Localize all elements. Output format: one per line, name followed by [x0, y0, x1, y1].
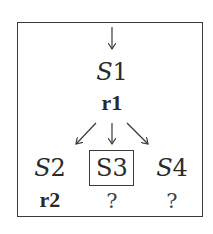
s4-state-number: 4 [173, 154, 188, 182]
root-rule-label: r1 [92, 91, 132, 115]
child-s4-rule-label: ? [152, 189, 192, 213]
s2-state-letter: S [34, 154, 50, 182]
child-s2-state-label: S2 [30, 156, 70, 180]
root-state-letter: S [96, 58, 112, 86]
s4-state-letter: S [156, 154, 172, 182]
root-state-number: 1 [113, 58, 128, 86]
arrow-to-s4-icon [127, 123, 148, 144]
child-s2-rule-label: r2 [30, 188, 70, 212]
child-s4-state-label: S4 [152, 156, 192, 180]
root-state-label: S1 [92, 60, 132, 84]
child-s3-rule-label: ? [92, 189, 132, 213]
arrow-to-s2-icon [76, 123, 96, 144]
s2-state-number: 2 [51, 154, 66, 182]
child-s3-state-box: S3 [89, 150, 134, 186]
